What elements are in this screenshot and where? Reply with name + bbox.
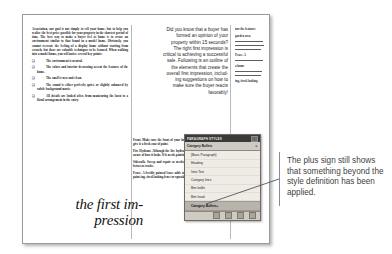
right-column-line: garden area	[235, 34, 265, 38]
bullet-marker-icon: ❑	[32, 65, 35, 73]
style-list-item[interactable]: Bim bullet	[185, 185, 260, 193]
list-item-label: All details are looked after, from manic…	[37, 94, 128, 102]
list-item: ❑ The environment is neutral.	[32, 59, 128, 63]
style-list-item[interactable]: Category Intro	[185, 176, 260, 184]
bullet-marker-icon: ❑	[32, 59, 35, 63]
text-line-filler	[235, 49, 261, 51]
style-list-item-selected[interactable]: Category Bullets+	[185, 201, 260, 210]
panel-menu-icon[interactable]	[251, 136, 258, 142]
text-line-filler	[235, 60, 263, 62]
list-item: ❑ The smell is new and clean.	[32, 76, 128, 80]
list-item-label: The sound is either perfectly quiet, or …	[37, 83, 128, 91]
text-line-filler	[235, 75, 261, 77]
clear-overrides-icon[interactable]	[225, 212, 232, 219]
bullet-marker-icon: ❑	[32, 76, 35, 80]
callout-text: The plus sign still shows that something…	[287, 156, 387, 198]
display-headline-line2: pression	[94, 212, 143, 228]
list-item: ❑ The colors and interior decorating acc…	[32, 65, 128, 73]
style-list-item[interactable]: Heading	[185, 160, 260, 168]
panel-title: PARAGRAPH STYLES	[187, 137, 222, 141]
right-column-line: a home	[235, 64, 265, 68]
new-style-icon[interactable]	[237, 212, 244, 219]
display-headline-line1: the first im-	[76, 196, 143, 212]
display-headline: the first im- pression	[31, 197, 143, 228]
style-list-item[interactable]: [Basic Paragraph]	[185, 152, 260, 160]
list-item-label: The environment is neutral.	[37, 59, 128, 63]
panel-footer	[185, 212, 260, 220]
left-column-body: Association, our goal is not simply to s…	[32, 27, 128, 56]
style-list-item[interactable]: Bim head	[185, 193, 260, 201]
intro-text-column: Did you know that a buyer has formed an …	[138, 27, 228, 96]
right-column-line: ing, tired-looking	[235, 79, 265, 83]
active-style-label: Category Bullets	[187, 144, 212, 148]
panel-titlebar[interactable]: PARAGRAPH STYLES	[185, 135, 260, 142]
text-line-filler	[235, 45, 264, 47]
bullet-marker-icon: ❑	[32, 83, 35, 91]
style-list-item[interactable]: Intro Text	[185, 168, 260, 176]
paragraph-styles-panel[interactable]: PARAGRAPH STYLES Category Bullets ⇅ [Bas…	[184, 134, 261, 221]
list-item-label: The smell is new and clean.	[37, 76, 128, 80]
left-text-column: Association, our goal is not simply to s…	[32, 27, 128, 102]
style-toggle-icon[interactable]: ⇅	[255, 144, 258, 148]
new-style-group-icon[interactable]	[213, 212, 220, 219]
list-item-label: The colors and interior decorating accen…	[37, 65, 128, 73]
callout-divider	[279, 152, 280, 206]
text-line-filler	[235, 41, 263, 43]
bullet-marker-icon: ❑	[32, 94, 35, 102]
list-item: ❑ All details are looked after, from man…	[32, 94, 128, 102]
text-line-filler	[235, 71, 262, 73]
style-list[interactable]: [Basic Paragraph] Heading Intro Text Cat…	[185, 151, 260, 212]
intro-line: favorably!	[138, 90, 228, 96]
right-column-line: nor the features	[235, 27, 265, 31]
list-item: ❑ The sound is either perfectly quiet, o…	[32, 83, 128, 91]
active-style-row[interactable]: Category Bullets ⇅	[185, 142, 260, 151]
right-text-column: nor the features garden area Peace. A a …	[235, 27, 265, 86]
delete-style-icon[interactable]	[249, 212, 256, 219]
right-column-line: Peace. A	[235, 53, 265, 57]
